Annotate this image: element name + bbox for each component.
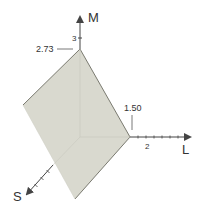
m-tick-label: 3: [72, 34, 77, 43]
m-intercept-label: 2.73: [36, 44, 54, 54]
s-ticks: [35, 170, 50, 187]
plane-intercept-diagram: M 3 2.73 1.50 2 L S: [0, 0, 202, 213]
l-tick-label: 2: [145, 142, 150, 151]
l-axis-label: L: [182, 142, 189, 157]
l-axis: [130, 136, 190, 139]
s-axis-label: S: [13, 189, 22, 204]
plane-surface: [23, 49, 130, 199]
s-axis: [27, 165, 53, 194]
l-intercept-label: 1.50: [124, 103, 142, 113]
m-axis-label: M: [88, 10, 99, 25]
m-axis: [78, 17, 82, 49]
